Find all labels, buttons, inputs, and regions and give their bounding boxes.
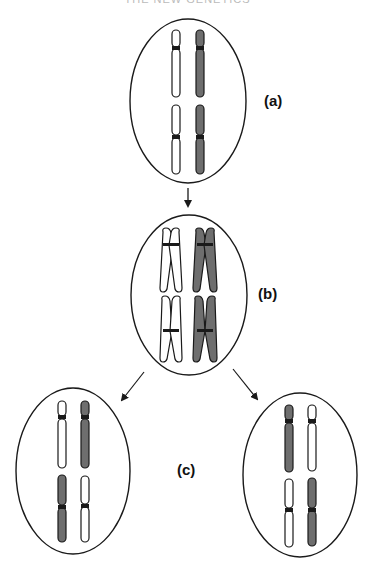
cell-membrane bbox=[130, 19, 246, 183]
chromosome-light bbox=[308, 405, 316, 471]
replicated-chromosome-dark bbox=[193, 296, 217, 362]
chromosome-light bbox=[285, 479, 293, 547]
chromosome-dark bbox=[308, 478, 316, 546]
chromosome-dark bbox=[196, 30, 204, 97]
replicated-chromosome-dark bbox=[193, 228, 217, 292]
cell-membrane bbox=[243, 393, 357, 557]
replicated-chromosome-light bbox=[160, 296, 182, 362]
cell-b bbox=[131, 215, 247, 375]
chromosome-light bbox=[58, 401, 66, 468]
stage-label-c: (c) bbox=[177, 461, 195, 478]
meiosis-diagram bbox=[0, 0, 375, 572]
chromosome-dark bbox=[196, 105, 204, 174]
replicated-chromosome-light bbox=[160, 228, 182, 292]
cell-c-left bbox=[16, 388, 130, 554]
chromosome-light bbox=[172, 105, 180, 174]
cell-a bbox=[130, 19, 246, 183]
stage-label-b: (b) bbox=[258, 285, 277, 302]
cell-membrane bbox=[131, 215, 247, 375]
stage-label-a: (a) bbox=[264, 92, 282, 109]
chromosome-light bbox=[172, 30, 180, 97]
chromosome-dark bbox=[58, 475, 66, 542]
cell-c-right bbox=[243, 393, 357, 557]
arrow-down-right-icon bbox=[233, 369, 257, 399]
chromosome-dark bbox=[81, 401, 89, 468]
arrow-down-left-icon bbox=[122, 372, 144, 400]
chromosome-light bbox=[81, 476, 89, 542]
cell-membrane bbox=[16, 388, 130, 554]
chromosome-dark bbox=[285, 405, 293, 472]
